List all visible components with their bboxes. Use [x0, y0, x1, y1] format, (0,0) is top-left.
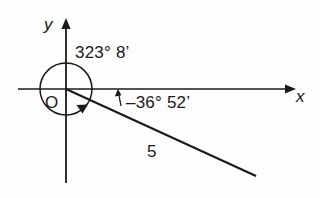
negative-angle-label: –36° 52’: [126, 94, 190, 111]
y-axis-label: y: [44, 16, 53, 33]
x-axis-label: x: [296, 88, 305, 105]
ray-length-label: 5: [147, 143, 156, 160]
angle-diagram-figure: y x O 323° 8’ –36° 52’ 5: [0, 0, 320, 198]
arrow-up-icon: [61, 18, 70, 29]
origin-label: O: [45, 94, 58, 111]
positive-angle-label: 323° 8’: [75, 44, 130, 61]
arrow-right-icon: [285, 85, 296, 94]
arrow-up-small-icon: [115, 89, 122, 97]
